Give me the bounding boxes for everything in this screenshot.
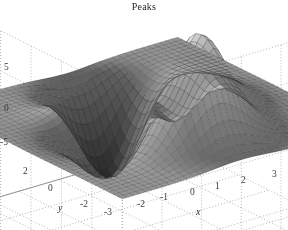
y-axis-label: y	[58, 203, 62, 213]
z-tick-label: 5	[4, 63, 9, 73]
z-tick-label: -5	[0, 138, 8, 148]
y-tick-label: 0	[48, 184, 53, 194]
x-tick-label: -1	[160, 193, 168, 203]
x-tick-label: 3	[272, 170, 277, 180]
x-axis-label: x	[196, 207, 200, 217]
x-tick-label: 0	[190, 188, 195, 198]
z-tick-label: 0	[4, 104, 9, 114]
axes-overlay: Peaks 5 0 -5 2 0 -2 -3 -2 -1 0 1 2 3 x y	[0, 0, 288, 230]
x-tick-label: 2	[241, 176, 246, 186]
page-title: Peaks	[0, 1, 288, 12]
peaks-surface-figure: Peaks 5 0 -5 2 0 -2 -3 -2 -1 0 1 2 3 x y	[0, 0, 288, 230]
x-tick-label: -2	[137, 200, 145, 210]
x-tick-label: 1	[215, 182, 220, 192]
y-tick-label: 2	[23, 167, 28, 177]
y-tick-label: -2	[80, 200, 88, 210]
y-tick-label: -3	[104, 208, 112, 218]
